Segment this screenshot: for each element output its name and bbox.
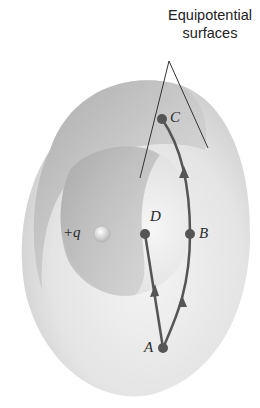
point-b-label: B — [199, 225, 208, 242]
point-a — [158, 343, 168, 353]
point-d-label: D — [150, 208, 161, 225]
charge-label: +q — [63, 224, 81, 241]
equipotential-diagram: Equipotential surfaces +q A B C D — [0, 0, 260, 408]
point-c-label: C — [170, 109, 180, 126]
charge-ball-icon — [94, 226, 110, 242]
point-a-label: A — [144, 339, 153, 356]
title-line-1: Equipotential — [150, 6, 260, 24]
title-line-2: surfaces — [150, 24, 260, 42]
point-c — [157, 114, 167, 124]
point-b — [185, 229, 195, 239]
inner-equipotential-surface — [60, 147, 190, 296]
diagram-graphic — [0, 0, 260, 408]
figure-title: Equipotential surfaces — [150, 6, 260, 42]
point-d — [140, 229, 150, 239]
